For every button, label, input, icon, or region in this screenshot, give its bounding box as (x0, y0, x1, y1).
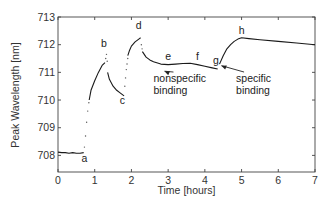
series-line-segment-rise-to-b (89, 63, 105, 100)
annotation-line: binding (153, 84, 187, 96)
annotation-label-g: g (213, 54, 219, 66)
data-point (106, 54, 107, 55)
data-point (86, 121, 87, 122)
y-tick-label: 710 (37, 94, 55, 106)
annotation-label-f: f (196, 50, 199, 62)
annotation-line: nonspecific (153, 72, 206, 84)
x-tick-label: 7 (312, 174, 318, 186)
data-point (125, 77, 126, 78)
annotation-label-c: c (120, 94, 125, 106)
x-tick-label: 6 (275, 174, 281, 186)
x-tick-label: 5 (239, 174, 245, 186)
data-point (105, 58, 106, 59)
data-point (141, 48, 142, 49)
y-tick-label: 712 (37, 38, 55, 50)
series-line-segment-d-h (142, 52, 217, 69)
annotation-line: binding (236, 84, 270, 96)
annotation-label-h: h (239, 24, 245, 36)
y-tick-label: 709 (37, 121, 55, 133)
data-point (84, 146, 85, 147)
annotation-nonspecific: nonspecificbinding (153, 72, 206, 96)
series-line-segment-b-c (108, 72, 125, 96)
axis-ticks: 01234567708709710711712713 (37, 11, 318, 187)
series-line-segment-g-h (220, 38, 316, 64)
y-tick-label: 708 (37, 149, 55, 161)
data-point (87, 110, 88, 111)
chart: 01234567708709710711712713 abcdefghnonsp… (0, 0, 331, 203)
data-point (85, 135, 86, 136)
arrowhead-icon (221, 66, 226, 70)
y-axis-label: Peak Wavelength [nm] (9, 42, 21, 147)
x-axis-label: Time [hours] (158, 184, 216, 196)
data-point (126, 63, 127, 64)
data-point (88, 102, 89, 103)
series-line-segment-rise-to-d (128, 38, 141, 56)
series-line-segment-a (58, 152, 84, 153)
annotation-line: specific (236, 72, 271, 84)
annotation-label-d: d (136, 19, 142, 31)
annotation-label-b: b (101, 37, 107, 49)
x-tick-label: 0 (55, 174, 61, 186)
annotation-specific: specificbinding (236, 72, 271, 96)
data-point (127, 58, 128, 59)
annotation-label-a: a (82, 152, 88, 164)
x-tick-label: 2 (129, 174, 135, 186)
annotation-label-e: e (165, 50, 171, 62)
data-point (106, 61, 107, 62)
data-point (141, 44, 142, 45)
x-tick-label: 1 (92, 174, 98, 186)
annotations: abcdefghnonspecificbindingspecificbindin… (82, 19, 272, 164)
y-tick-label: 711 (38, 66, 55, 78)
data-point (126, 69, 127, 70)
data-point (124, 85, 125, 86)
y-tick-label: 713 (37, 11, 55, 23)
